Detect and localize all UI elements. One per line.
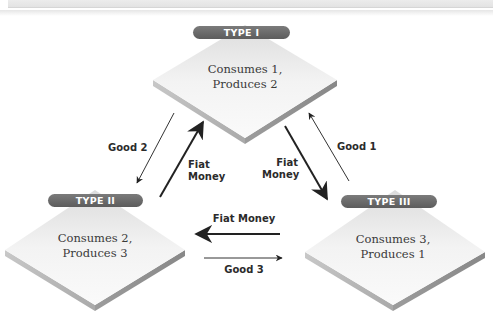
type2-consumes: Consumes 2, [35, 231, 155, 246]
type3-description: Consumes 3, Produces 1 [333, 232, 453, 262]
type1-description: Consumes 1, Produces 2 [185, 62, 305, 92]
label-fiat-line1: Fiat [188, 159, 225, 171]
label-fiat-money-3-to-2: Fiat Money [204, 213, 284, 225]
label-good2: Good 2 [108, 142, 148, 154]
label-fiat-money-2-to-1: Fiat Money [188, 159, 225, 183]
label-good3: Good 3 [204, 264, 284, 276]
type2-title-pill: TYPE II [48, 194, 143, 207]
type2-produces: Produces 3 [35, 246, 155, 261]
label-fiat-money-1-to-3: Fiat Money [262, 157, 298, 181]
type3-title-pill: TYPE III [341, 195, 437, 208]
label-good1: Good 1 [337, 141, 377, 153]
type1-produces: Produces 2 [185, 77, 305, 92]
type3-consumes: Consumes 3, [333, 232, 453, 247]
label-fiat-line1: Fiat [262, 157, 298, 169]
type2-description: Consumes 2, Produces 3 [35, 231, 155, 261]
type1-consumes: Consumes 1, [185, 62, 305, 77]
type1-title-pill: TYPE I [193, 26, 290, 39]
type3-produces: Produces 1 [333, 247, 453, 262]
label-money-line2: Money [188, 171, 225, 183]
label-money-line2: Money [262, 169, 298, 181]
